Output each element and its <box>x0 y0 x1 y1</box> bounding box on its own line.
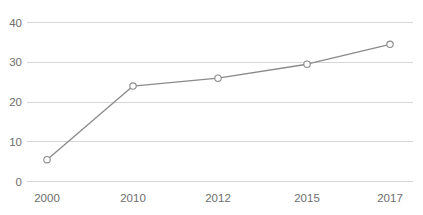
data-point-marker[interactable] <box>387 41 393 47</box>
x-tick-label-2015: 2015 <box>294 192 320 204</box>
y-tick-label-10: 10 <box>9 136 22 148</box>
gridlines <box>27 23 413 182</box>
x-tick-label-2010: 2010 <box>120 192 146 204</box>
x-tick-label-2000: 2000 <box>34 192 60 204</box>
y-tick-label-40: 40 <box>9 17 22 29</box>
y-tick-label-0: 0 <box>16 176 22 188</box>
y-tick-label-20: 20 <box>9 96 22 108</box>
line-chart: 40 30 20 10 0 2000 2010 2012 2015 2017 <box>0 0 423 215</box>
data-point-marker[interactable] <box>44 156 50 162</box>
x-tick-label-2012: 2012 <box>205 192 231 204</box>
data-point-marker[interactable] <box>215 75 221 81</box>
x-axis-labels: 2000 2010 2012 2015 2017 <box>34 192 403 204</box>
x-tick-label-2017: 2017 <box>377 192 403 204</box>
data-point-marker[interactable] <box>304 61 310 67</box>
chart-canvas: 40 30 20 10 0 2000 2010 2012 2015 2017 <box>0 0 423 215</box>
y-tick-label-30: 30 <box>9 56 22 68</box>
y-axis-labels: 40 30 20 10 0 <box>9 17 22 188</box>
data-point-marker[interactable] <box>130 83 136 89</box>
